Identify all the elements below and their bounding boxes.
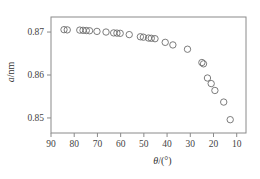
y-tick-label: 0.87 [27, 27, 44, 37]
y-axis-title: a/nm [5, 62, 16, 83]
x-tick-label: 10 [232, 139, 242, 149]
x-tick-label: 20 [209, 139, 219, 149]
data-point [204, 75, 210, 81]
data-point [94, 28, 100, 34]
x-axis-ticks [51, 133, 237, 137]
x-axis-title: θ/(°) [153, 155, 171, 167]
data-point [170, 42, 176, 48]
x-tick-label: 30 [186, 139, 196, 149]
x-tick-label: 50 [139, 139, 149, 149]
data-point [221, 99, 227, 105]
data-point [152, 36, 158, 42]
data-point [227, 116, 233, 122]
x-tick-label: 80 [69, 139, 79, 149]
data-point [208, 80, 214, 86]
data-point [184, 46, 190, 52]
y-axis-tick-labels: 0.850.860.87 [27, 27, 44, 123]
y-tick-label: 0.86 [27, 70, 44, 80]
y-tick-label: 0.85 [27, 113, 44, 123]
data-point [200, 61, 206, 67]
y-axis-title-text: a/nm [5, 62, 16, 83]
x-axis-title-text: θ/(°) [153, 155, 171, 167]
x-tick-label: 70 [93, 139, 103, 149]
data-point [162, 39, 168, 45]
x-axis-tick-labels: 908070605040302010 [46, 139, 241, 149]
y-axis-ticks [47, 32, 51, 118]
scatter-plot: 908070605040302010 0.850.860.87 θ/(°) a/… [0, 0, 260, 179]
data-point [212, 87, 218, 93]
data-point [126, 31, 132, 37]
x-tick-label: 90 [46, 139, 56, 149]
data-point [103, 29, 109, 35]
data-points [61, 26, 234, 122]
x-tick-label: 60 [116, 139, 126, 149]
x-tick-label: 40 [162, 139, 172, 149]
chart-figure: 908070605040302010 0.850.860.87 θ/(°) a/… [0, 0, 260, 179]
